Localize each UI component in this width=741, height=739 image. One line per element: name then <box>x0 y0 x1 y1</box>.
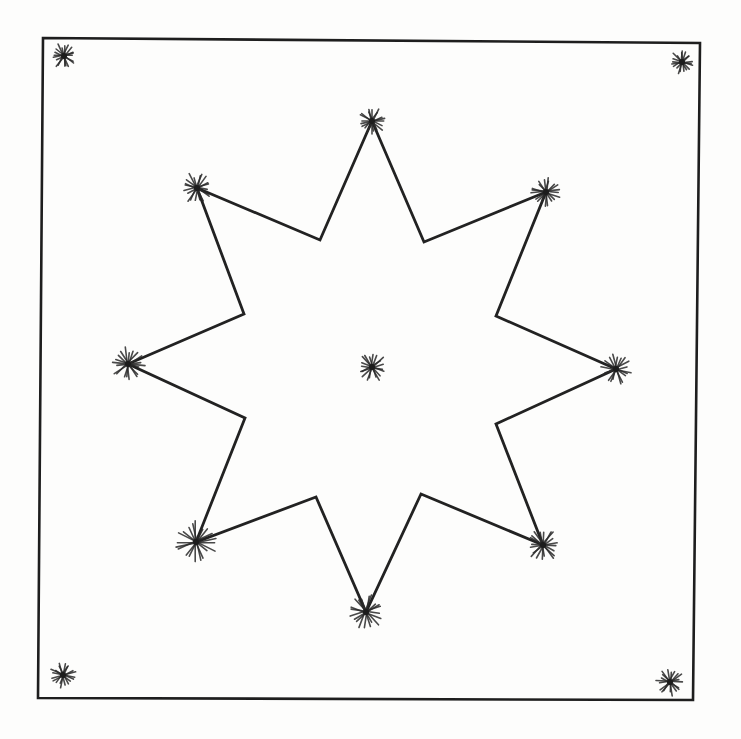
star-diagram <box>0 0 741 739</box>
asterisk-icon-center <box>361 355 384 381</box>
asterisk-icon-star-point-lower-right <box>531 532 558 559</box>
asterisk-icon-corner-top-right <box>672 51 693 74</box>
asterisk-icon-corner-top-left <box>53 44 73 66</box>
asterisk-icon-star-point-right <box>601 354 631 384</box>
asterisk-icon-star-point-left <box>113 347 145 379</box>
asterisk-icon-star-point-upper-left <box>184 174 209 202</box>
asterisk-icon-star-point-upper-right <box>531 178 560 206</box>
asterisk-icon-star-point-bottom <box>350 595 381 628</box>
asterisk-icon-star-point-lower-left <box>176 521 216 562</box>
asterisk-icon-corner-bottom-left <box>51 663 76 687</box>
asterisk-icon-star-point-top <box>360 109 384 134</box>
asterisk-icon-corner-bottom-right <box>656 670 682 696</box>
